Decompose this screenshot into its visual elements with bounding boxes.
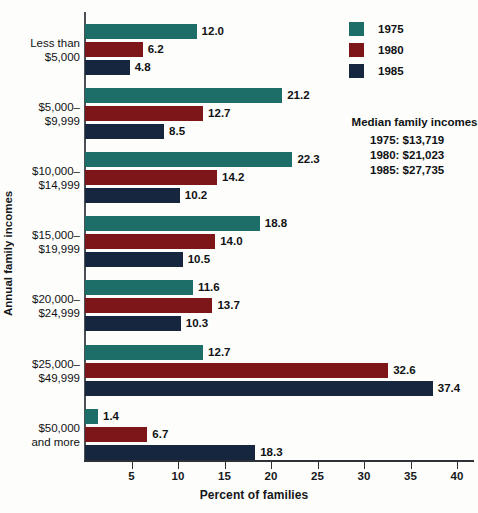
bar-1985 — [85, 188, 180, 203]
bar-value-label: 6.2 — [143, 42, 164, 57]
bar-group: $15,000– $19,99918.814.010.5 — [0, 216, 478, 267]
x-axis-line — [84, 460, 474, 462]
x-axis-title: Percent of families — [0, 488, 478, 502]
bar-row: 10.2 — [85, 188, 478, 203]
bar-row: 37.4 — [85, 381, 478, 396]
bar-row: 12.7 — [85, 345, 478, 360]
bar-value-label: 11.6 — [193, 280, 220, 295]
bar-1985 — [85, 381, 433, 396]
bar-1985 — [85, 124, 164, 139]
bar-value-label: 4.8 — [130, 60, 151, 75]
bar-value-label: 21.2 — [282, 88, 309, 103]
median-income-heading: Median family incomes — [351, 116, 478, 128]
bar-value-label: 10.5 — [183, 252, 210, 267]
x-tick-label: 40 — [451, 470, 464, 482]
bar-1975 — [85, 88, 282, 103]
bar-value-label: 12.0 — [197, 24, 224, 39]
bar-row: 10.5 — [85, 252, 478, 267]
bar-row: 11.6 — [85, 280, 478, 295]
bar-value-label: 10.3 — [181, 316, 208, 331]
bar-1980 — [85, 363, 388, 378]
bar-1980 — [85, 298, 212, 313]
bar-value-label: 13.7 — [212, 298, 239, 313]
x-tick-mark — [132, 462, 133, 469]
bar-row: 6.2 — [85, 42, 478, 57]
bar-row: 4.8 — [85, 60, 478, 75]
x-tick-mark — [457, 462, 458, 469]
category-label: $25,000– $49,999 — [6, 357, 80, 385]
bar-row: 10.3 — [85, 316, 478, 331]
median-income-row: 1980: $21,023 — [345, 148, 478, 163]
x-tick-mark — [318, 462, 319, 469]
bar-value-label: 18.8 — [260, 216, 287, 231]
x-tick-label: 15 — [218, 470, 231, 482]
x-tick-label: 30 — [358, 470, 371, 482]
bar-1985 — [85, 252, 183, 267]
bar-value-label: 6.7 — [147, 427, 168, 442]
bar-1975 — [85, 216, 260, 231]
median-income-row: 1985: $27,735 — [345, 163, 478, 178]
x-tick-label: 10 — [172, 470, 185, 482]
bar-value-label: 8.5 — [164, 124, 185, 139]
bar-1985 — [85, 316, 181, 331]
bar-1975 — [85, 345, 203, 360]
bar-1980 — [85, 106, 203, 121]
bar-1980 — [85, 234, 215, 249]
bar-chart-figure: 510152025303540 Less than $5,00012.06.24… — [0, 0, 478, 513]
bar-value-label: 37.4 — [433, 381, 460, 396]
bar-1975 — [85, 409, 98, 424]
y-axis-title: Annual family incomes — [2, 178, 20, 328]
x-tick-mark — [411, 462, 412, 469]
bar-row: 1.4 — [85, 409, 478, 424]
x-tick-mark — [364, 462, 365, 469]
median-income-rows: 1975: $13,7191980: $21,0231985: $27,735 — [345, 133, 478, 178]
bar-1980 — [85, 42, 143, 57]
bar-value-label: 18.3 — [255, 445, 282, 460]
bar-value-label: 12.7 — [203, 345, 230, 360]
legend-label: 1985 — [378, 62, 404, 81]
bar-group: $25,000– $49,99912.732.637.4 — [0, 345, 478, 396]
x-tick-mark — [225, 462, 226, 469]
x-tick-mark — [271, 462, 272, 469]
bar-row: 18.3 — [85, 445, 478, 460]
bar-value-label: 14.0 — [215, 234, 242, 249]
legend-swatch-icon — [349, 64, 364, 78]
median-income-annotation: Median family incomes 1975: $13,7191980:… — [345, 116, 478, 178]
x-tick-label: 20 — [265, 470, 278, 482]
bar-group: $50,000 and more1.46.718.3 — [0, 409, 478, 460]
bar-1985 — [85, 445, 255, 460]
bar-row: 12.0 — [85, 24, 478, 39]
legend-swatch-icon — [349, 22, 364, 36]
bar-1975 — [85, 24, 197, 39]
bar-1980 — [85, 170, 217, 185]
x-tick-label: 5 — [128, 470, 134, 482]
bar-value-label: 1.4 — [98, 409, 119, 424]
median-income-row: 1975: $13,719 — [345, 133, 478, 148]
bar-value-label: 12.7 — [203, 106, 230, 121]
bar-row: 14.0 — [85, 234, 478, 249]
bar-1975 — [85, 280, 193, 295]
x-axis-title-text: Percent of families — [200, 488, 309, 502]
bar-1975 — [85, 152, 292, 167]
legend-label: 1980 — [378, 41, 404, 60]
bar-row: 32.6 — [85, 363, 478, 378]
bar-row: 13.7 — [85, 298, 478, 313]
x-tick-label: 25 — [311, 470, 324, 482]
bar-1980 — [85, 427, 147, 442]
x-tick-label: 35 — [404, 470, 417, 482]
bar-row: 18.8 — [85, 216, 478, 231]
legend-label: 1975 — [378, 20, 404, 39]
category-label: $5,000– $9,999 — [6, 100, 80, 128]
bar-row: 21.2 — [85, 88, 478, 103]
bar-value-label: 14.2 — [217, 170, 244, 185]
bar-value-label: 32.6 — [388, 363, 415, 378]
x-tick-mark — [178, 462, 179, 469]
bar-value-label: 10.2 — [180, 188, 207, 203]
category-label: Less than $5,000 — [6, 36, 80, 64]
bar-1985 — [85, 60, 130, 75]
category-label: $50,000 and more — [6, 421, 80, 449]
bar-value-label: 22.3 — [292, 152, 319, 167]
bar-group: $20,000– $24,99911.613.710.3 — [0, 280, 478, 331]
legend-swatch-icon — [349, 43, 364, 57]
bar-row: 6.7 — [85, 427, 478, 442]
